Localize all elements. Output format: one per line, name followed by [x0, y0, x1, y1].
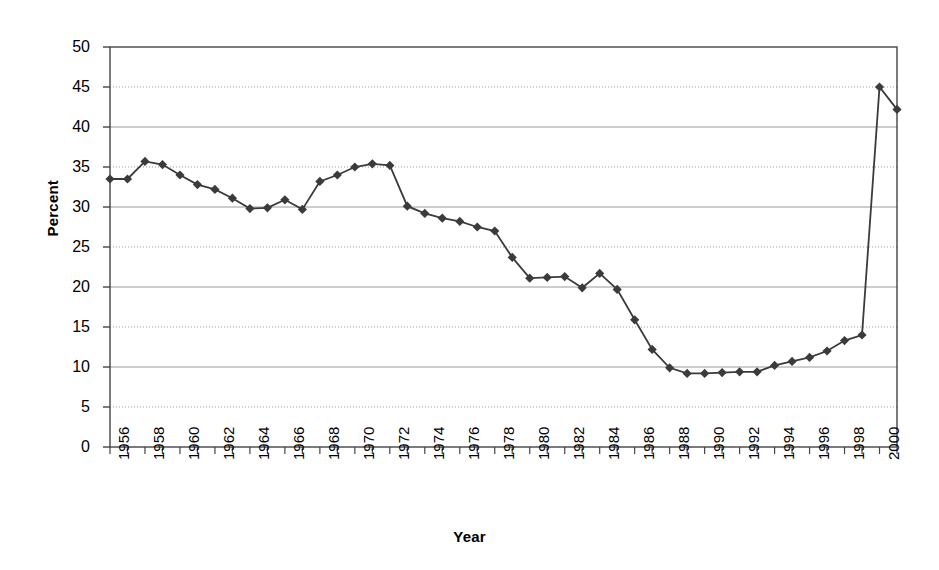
y-tick-label: 20 [46, 279, 90, 295]
data-point-marker [158, 160, 167, 169]
x-axis-ticks [103, 47, 897, 454]
x-axis-title: Year [0, 528, 939, 545]
data-point-marker [280, 195, 289, 204]
y-tick-label: 30 [46, 199, 90, 215]
data-point-marker [857, 330, 866, 339]
x-tick-label: 1976 [466, 427, 481, 460]
data-line [110, 87, 897, 373]
x-tick-label: 1994 [781, 427, 796, 460]
data-point-marker [700, 369, 709, 378]
data-point-marker [718, 368, 727, 377]
data-point-marker [210, 185, 219, 194]
data-point-marker [630, 315, 639, 324]
data-point-marker [263, 203, 272, 212]
x-tick-label: 1960 [186, 427, 201, 460]
x-tick-label: 1974 [431, 427, 446, 460]
x-tick-label: 1980 [536, 427, 551, 460]
x-tick-label: 1972 [396, 427, 411, 460]
y-tick-label: 40 [46, 119, 90, 135]
data-point-marker [683, 369, 692, 378]
x-tick-label: 1970 [361, 427, 376, 460]
y-tick-label: 5 [46, 399, 90, 415]
data-point-marker [735, 367, 744, 376]
data-point-marker [193, 180, 202, 189]
data-point-marker [368, 159, 377, 168]
y-tick-label: 10 [46, 359, 90, 375]
x-tick-label: 1982 [571, 427, 586, 460]
data-point-marker [805, 353, 814, 362]
data-point-marker [543, 273, 552, 282]
plot-area [0, 0, 939, 570]
line-chart: Percent 05101520253035404550 19561958196… [0, 0, 939, 570]
x-tick-label: 1958 [151, 427, 166, 460]
data-point-marker [385, 161, 394, 170]
data-point-marker [840, 336, 849, 345]
y-tick-label: 25 [46, 239, 90, 255]
data-point-marker [175, 170, 184, 179]
data-point-marker [403, 202, 412, 211]
data-point-marker [473, 222, 482, 231]
data-point-marker [438, 214, 447, 223]
data-point-marker [420, 209, 429, 218]
x-tick-label: 1990 [711, 427, 726, 460]
data-point-marker [228, 194, 237, 203]
x-tick-label: 1986 [641, 427, 656, 460]
data-point-marker [490, 226, 499, 235]
x-tick-label: 1962 [221, 427, 236, 460]
y-tick-label: 35 [46, 159, 90, 175]
data-point-marker [822, 346, 831, 355]
data-point-marker [298, 205, 307, 214]
y-tick-label: 15 [46, 319, 90, 335]
data-point-marker [787, 357, 796, 366]
x-tick-label: 2000 [886, 427, 901, 460]
data-point-marker [350, 162, 359, 171]
data-point-marker [560, 272, 569, 281]
data-point-marker [333, 170, 342, 179]
y-tick-label: 50 [46, 39, 90, 55]
x-tick-label: 1998 [851, 427, 866, 460]
x-tick-label: 1968 [326, 427, 341, 460]
data-point-marker [455, 217, 464, 226]
data-point-marker [105, 174, 114, 183]
data-point-marker [245, 204, 254, 213]
data-point-marker [770, 361, 779, 370]
x-tick-label: 1966 [291, 427, 306, 460]
x-tick-label: 1956 [116, 427, 131, 460]
data-point-marker [315, 177, 324, 186]
x-tick-label: 1964 [256, 427, 271, 460]
x-tick-label: 1988 [676, 427, 691, 460]
y-tick-label: 0 [46, 439, 90, 455]
x-tick-label: 1984 [606, 427, 621, 460]
y-tick-label-column: 05101520253035404550 [46, 0, 90, 570]
x-tick-label: 1978 [501, 427, 516, 460]
x-tick-label: 1996 [816, 427, 831, 460]
data-point-marker [752, 367, 761, 376]
x-tick-label: 1992 [746, 427, 761, 460]
y-tick-label: 45 [46, 79, 90, 95]
gridlines [110, 87, 897, 407]
